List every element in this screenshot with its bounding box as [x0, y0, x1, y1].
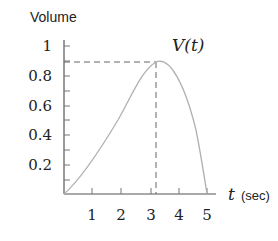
y-tick-label: 0.4 [28, 126, 52, 144]
x-axis-var: t [228, 184, 235, 204]
y-tick-labels: 1 0.8 0.6 0.4 0.2 [28, 37, 52, 174]
x-tick-label: 4 [174, 206, 184, 224]
x-tick-label: 5 [202, 206, 212, 224]
y-tick-label: 0.6 [28, 97, 52, 115]
volume-curve [64, 61, 207, 194]
x-tick-label: 3 [146, 206, 156, 224]
x-tick-labels: 1 2 3 4 5 [87, 206, 212, 224]
x-tick-label: 2 [116, 206, 126, 224]
y-axis-title: Volume [30, 9, 77, 25]
y-tick-label: 0.8 [28, 67, 52, 85]
y-ticks [64, 46, 70, 180]
volume-chart: Volume 1 0.8 0.6 0.4 0.2 1 2 3 4 5 [0, 0, 278, 241]
x-axis-unit: (sec) [241, 188, 270, 203]
x-ticks [92, 188, 207, 194]
y-tick-label: 0.2 [28, 156, 52, 174]
y-tick-label: 1 [42, 37, 52, 55]
x-tick-label: 1 [87, 206, 97, 224]
curve-label: V(t) [172, 35, 204, 55]
